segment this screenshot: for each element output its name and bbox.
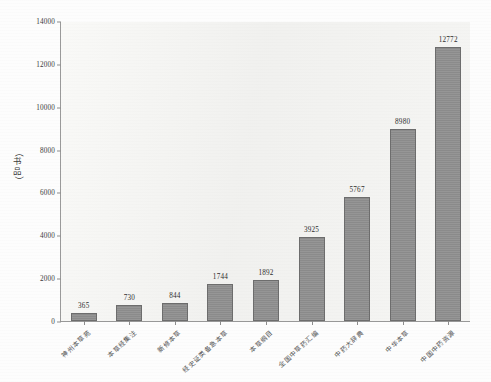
x-axis-tick-mark <box>266 321 267 325</box>
bar[interactable] <box>299 237 325 321</box>
x-axis-tick-mark <box>129 321 130 325</box>
bar-value-label: 1744 <box>213 273 228 281</box>
bar[interactable] <box>253 280 279 321</box>
y-axis-title-close-paren: ） <box>13 173 22 189</box>
x-axis-label: 全国中草药汇编 <box>276 327 320 369</box>
x-axis-label: 中国中药资源 <box>418 327 457 364</box>
bar-chart-figure: （ 书 品 ） 02000400060008000100001200014000… <box>0 0 491 382</box>
x-axis-tick-mark <box>220 321 221 325</box>
bar[interactable] <box>71 313 97 321</box>
y-axis-tick-mark <box>57 64 61 65</box>
x-axis-tick-mark <box>357 321 358 325</box>
x-axis-label: 本草纲目 <box>246 327 274 354</box>
y-axis-tick-mark <box>57 193 61 194</box>
x-axis-label: 中华本草 <box>383 327 411 354</box>
y-axis-tick-mark <box>57 279 61 280</box>
x-axis-label: 经史证类备急本草 <box>179 327 229 374</box>
y-axis-tick-mark <box>57 107 61 108</box>
x-axis-tick-mark <box>312 321 313 325</box>
bar-value-label: 365 <box>78 302 89 310</box>
x-axis-label: 新修本草 <box>155 327 183 354</box>
x-axis-tick-mark <box>175 321 176 325</box>
y-axis-title-open-paren: （ <box>13 145 22 161</box>
bar[interactable] <box>435 47 461 321</box>
bar[interactable] <box>207 284 233 321</box>
x-axis-label: 本草经集注 <box>104 327 138 359</box>
y-axis-title: （ 书 品 ） <box>9 148 25 185</box>
y-axis-tick-mark <box>57 236 61 237</box>
bar-value-label: 730 <box>124 294 135 302</box>
x-axis-tick-mark <box>403 321 404 325</box>
bar-value-label: 8980 <box>395 118 410 126</box>
y-axis-tick-mark <box>57 22 61 23</box>
bar[interactable] <box>162 303 188 321</box>
y-axis-tick-mark <box>57 322 61 323</box>
x-axis-label: 中药大辞典 <box>332 327 366 359</box>
y-axis-tick-mark <box>57 150 61 151</box>
plot-area: 02000400060008000100001200014000 3657308… <box>60 22 470 322</box>
bar[interactable] <box>116 305 142 321</box>
x-axis-tick-mark <box>448 321 449 325</box>
bar-value-label: 12772 <box>439 36 458 44</box>
x-axis-tick-mark <box>84 321 85 325</box>
bar-value-label: 844 <box>169 292 180 300</box>
bar-value-label: 3925 <box>304 226 319 234</box>
bar[interactable] <box>390 129 416 321</box>
bar[interactable] <box>344 197 370 321</box>
bar-value-label: 5767 <box>350 186 365 194</box>
x-axis-label: 神州本草苑 <box>59 327 93 359</box>
bar-value-label: 1892 <box>258 269 273 277</box>
